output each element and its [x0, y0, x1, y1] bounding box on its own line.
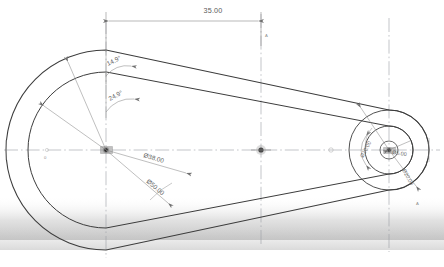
- cad-drawing-canvas: 35.00 14.9° 24.9° Ø38.00 Ø50.00 Ø10.00 Ø…: [0, 0, 444, 267]
- label-left-edge: 0: [44, 155, 47, 160]
- label-right-edge: A: [416, 201, 419, 206]
- dim-label-large-inner-dia: Ø38.00: [143, 151, 166, 164]
- dim-label-outer-tangent-angle: 14.9°: [105, 54, 122, 67]
- technical-drawing: 35.00 14.9° 24.9° Ø38.00 Ø50.00 Ø10.00 Ø…: [0, 0, 444, 267]
- label-top-node: A: [265, 33, 268, 38]
- mid-center-marker: [251, 145, 271, 155]
- dim-label-inner-tangent-angle: 24.9°: [107, 88, 124, 101]
- linear-dimension-35: [106, 12, 261, 52]
- dim-label-small-boss-dia: Ø20.00: [401, 168, 415, 186]
- dim-label-large-outer-dia: Ø50.00: [145, 177, 166, 196]
- dim-label-center-distance: 35.00: [204, 6, 223, 15]
- dim-label-small-inner-dia: Ø5.00: [392, 149, 407, 157]
